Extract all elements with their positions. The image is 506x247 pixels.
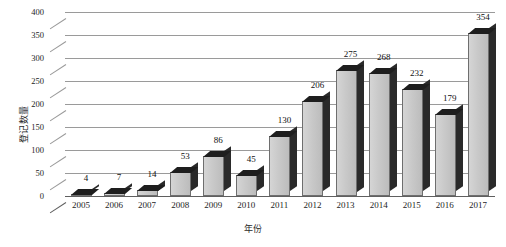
bar-value-label: 354 <box>463 12 503 22</box>
y-axis-tick-label: 50 <box>18 168 44 178</box>
bar-column[interactable]: 86 <box>203 6 235 196</box>
axis-baseline <box>65 196 495 197</box>
bar-3d-body <box>435 114 456 196</box>
bar-value-label: 268 <box>364 52 404 62</box>
bar-column[interactable]: 130 <box>269 6 301 196</box>
bar-front-face <box>236 175 257 196</box>
bar-top-face <box>104 188 132 194</box>
bar-column[interactable]: 53 <box>170 6 202 196</box>
bar-side-face <box>390 63 397 191</box>
gridline-depth <box>50 64 66 75</box>
bar-column[interactable]: 14 <box>137 6 169 196</box>
bar-3d-body <box>302 101 323 196</box>
bar-value-label: 179 <box>430 93 470 103</box>
bar-top-face <box>71 189 99 195</box>
y-axis-tick-label: 250 <box>18 76 44 86</box>
y-axis-tick-label: 400 <box>18 7 44 17</box>
bar-front-face <box>269 136 290 196</box>
gridline-depth <box>50 18 66 29</box>
bar-front-face <box>336 70 357 197</box>
bar-front-face <box>402 89 423 196</box>
x-axis-title: 年份 <box>0 222 506 235</box>
bar-side-face <box>290 126 297 191</box>
bar-3d-body <box>137 190 158 196</box>
bar-value-label: 45 <box>231 154 271 164</box>
bar-side-face <box>456 104 463 191</box>
bar-side-face <box>323 92 330 191</box>
bar-column[interactable]: 206 <box>302 6 334 196</box>
bar-column[interactable]: 354 <box>468 6 500 196</box>
bar-side-face <box>423 80 430 191</box>
bar-column[interactable]: 45 <box>236 6 268 196</box>
bar-value-label: 86 <box>198 135 238 145</box>
gridline-depth <box>50 179 66 190</box>
bar-column[interactable]: 4 <box>71 6 103 196</box>
bar-front-face <box>468 33 489 196</box>
bar-3d-body <box>236 175 257 196</box>
bar-front-face <box>435 114 456 196</box>
plot-area: 4714538645130206275268232179354 <box>47 6 499 196</box>
bar-column[interactable]: 7 <box>104 6 136 196</box>
x-axis-tick-labels: 2005200620072008200920102011201220132014… <box>65 200 498 216</box>
y-axis-tick-label: 150 <box>18 122 44 132</box>
bar-value-label: 206 <box>297 80 337 90</box>
bar-3d-body <box>104 193 125 196</box>
bar-series: 4714538645130206275268232179354 <box>65 6 495 196</box>
bar-3d-body <box>468 33 489 196</box>
bar-column[interactable]: 179 <box>435 6 467 196</box>
bar-3d-body <box>170 172 191 196</box>
bar-front-face <box>203 156 224 196</box>
gridline-depth <box>50 110 66 121</box>
bar-front-face <box>369 73 390 196</box>
bar-3d-body <box>336 70 357 197</box>
bar-3d-body <box>402 89 423 196</box>
y-axis-tick-labels: 400350300250200150100500 <box>14 0 44 247</box>
bar-value-label: 232 <box>397 68 437 78</box>
bar-value-label: 53 <box>165 151 205 161</box>
bar-3d-body <box>203 156 224 196</box>
bar-value-label: 130 <box>264 115 304 125</box>
bar-3d-body <box>369 73 390 196</box>
y-axis-tick-label: 350 <box>18 30 44 40</box>
x-axis-tick-label: 2017 <box>458 200 498 210</box>
bar-value-label: 14 <box>132 169 172 179</box>
bar-3d-body <box>71 194 92 196</box>
y-axis-tick-label: 300 <box>18 53 44 63</box>
gridline-depth <box>50 41 66 52</box>
bar-column[interactable]: 268 <box>369 6 401 196</box>
y-axis-tick-label: 0 <box>18 191 44 201</box>
gridline-depth <box>50 87 66 98</box>
y-axis-tick-label: 200 <box>18 99 44 109</box>
bar-top-face <box>137 185 165 191</box>
bar-front-face <box>170 172 191 196</box>
bar-column[interactable]: 275 <box>336 6 368 196</box>
bar-chart: 登记数量 400350300250200150100500 4714538645… <box>0 0 506 247</box>
bar-front-face <box>302 101 323 196</box>
bar-side-face <box>357 60 364 191</box>
y-axis-tick-label: 100 <box>18 145 44 155</box>
bar-side-face <box>489 23 496 191</box>
gridline-depth <box>50 156 66 167</box>
bar-3d-body <box>269 136 290 196</box>
gridline-depth <box>50 133 66 144</box>
